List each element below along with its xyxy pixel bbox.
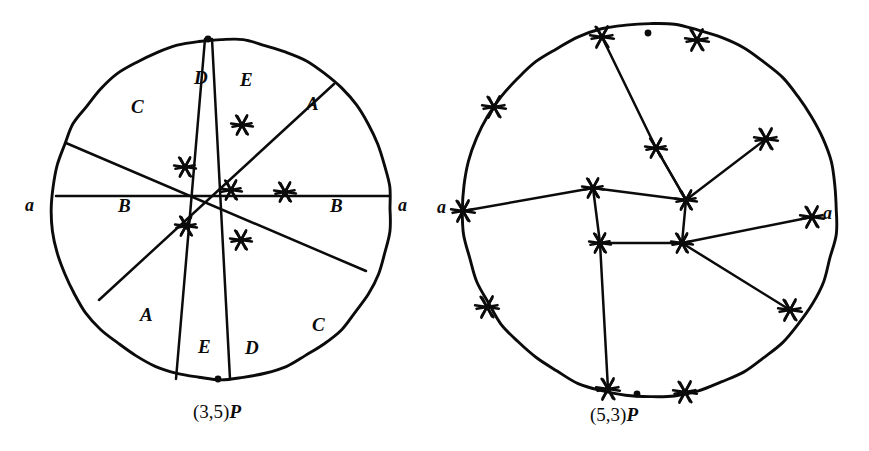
star-core xyxy=(682,389,688,395)
right-caption: (5,3)P xyxy=(590,405,638,424)
left-region-label-e-7: E xyxy=(198,337,211,356)
chord-2 xyxy=(463,188,686,211)
star-core xyxy=(183,223,189,229)
left-region-label-d-1: D xyxy=(194,68,208,87)
star-core xyxy=(238,237,244,243)
right-caption-point: P xyxy=(626,404,638,425)
right-a-right-label: a xyxy=(823,204,832,222)
right-caption-coords: (5,3) xyxy=(590,404,626,425)
star-core xyxy=(484,304,490,310)
chord-5 xyxy=(600,243,608,389)
left-region-label-c-9: C xyxy=(312,315,325,334)
b-4 xyxy=(800,206,824,227)
chord-1 xyxy=(176,39,205,379)
bottom-dot xyxy=(215,376,222,383)
left-caption-coords: (3,5) xyxy=(193,401,229,422)
inner-top xyxy=(645,138,667,157)
star-core xyxy=(282,189,288,195)
star-core xyxy=(597,240,603,246)
chord-1 xyxy=(602,37,766,200)
star-core xyxy=(491,104,497,110)
right-circle-boundary xyxy=(462,23,836,396)
star-core xyxy=(182,164,188,170)
right-a-left-label: a xyxy=(437,198,446,216)
left-a-right-label: a xyxy=(398,196,407,214)
b-5 xyxy=(778,299,802,320)
star-core xyxy=(694,37,700,43)
star-core xyxy=(653,145,659,151)
left-region-label-b-5: B xyxy=(330,196,343,215)
star-core xyxy=(239,122,245,128)
b-10 xyxy=(482,96,506,117)
star-core xyxy=(809,214,815,220)
left-region-label-d-8: D xyxy=(245,338,259,357)
left-region-label-b-4: B xyxy=(118,196,131,215)
left-region-label-a-6: A xyxy=(140,305,153,324)
star-core xyxy=(763,136,769,142)
left-region-label-c-0: C xyxy=(131,97,144,116)
star-core xyxy=(787,307,793,313)
left-caption: (3,5)P xyxy=(193,402,241,421)
left-a-left-label: a xyxy=(25,196,34,214)
chord-4 xyxy=(593,188,790,310)
v-lower xyxy=(230,230,252,249)
b-6 xyxy=(673,381,697,402)
star-core xyxy=(605,386,611,392)
left-region-label-a-3: A xyxy=(306,94,319,113)
bottom-dot xyxy=(634,391,641,398)
top-dot xyxy=(205,36,212,43)
star-core xyxy=(590,185,596,191)
star-core xyxy=(683,197,689,203)
star-core xyxy=(599,34,605,40)
left-region-label-e-2: E xyxy=(240,70,253,89)
star-core xyxy=(228,187,234,193)
star-core xyxy=(460,208,466,214)
panel-right xyxy=(451,23,837,402)
v-right xyxy=(274,182,296,201)
figure-canvas: CDEABBAEDC aa (3,5)P aa (5,3)P xyxy=(0,0,869,451)
top-dot xyxy=(645,30,652,37)
diagram-svg xyxy=(0,0,869,451)
star-core xyxy=(679,240,685,246)
chord-3 xyxy=(66,143,366,271)
v-upper xyxy=(231,115,253,134)
left-caption-point: P xyxy=(229,401,241,422)
